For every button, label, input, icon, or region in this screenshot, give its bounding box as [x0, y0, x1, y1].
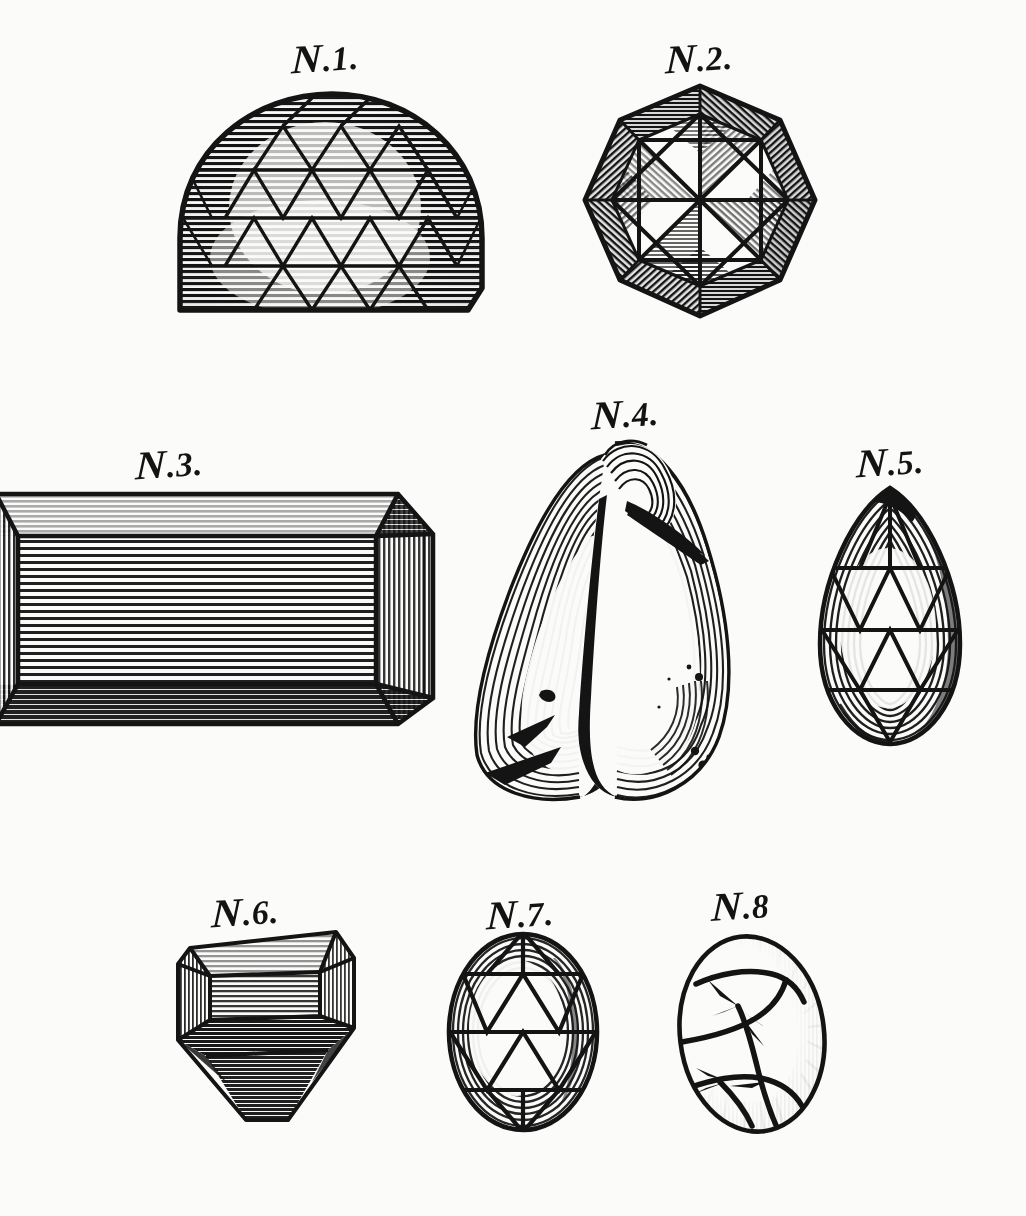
figure-n8-label: N.8 [711, 884, 771, 928]
engraved-plate: N.1. [0, 0, 1026, 1216]
figure-n4-drawing [455, 425, 765, 825]
figure-n5 [800, 478, 980, 758]
figure-n1-label-suffix: .1. [321, 40, 360, 79]
figure-n5-label: N.5. [856, 440, 925, 485]
figure-n3-drawing [0, 470, 448, 740]
figure-n3-label-suffix: .3. [165, 446, 204, 485]
figure-n3-label: N.3. [135, 442, 204, 487]
figure-n1-label-prefix: N [291, 38, 323, 80]
figure-n8 [660, 922, 840, 1152]
figure-n7-drawing [437, 928, 612, 1143]
figure-n8-label-suffix: .8 [741, 888, 770, 927]
figure-n8-drawing [660, 922, 840, 1152]
figure-n4-label-prefix: N [591, 394, 623, 436]
figure-n2-label-prefix: N [665, 38, 697, 80]
figure-n2-label-suffix: .2. [695, 40, 734, 79]
figure-n7-label-suffix: .7. [516, 896, 555, 935]
figure-n2-drawing [575, 78, 825, 328]
figure-n5-label-suffix: .5. [886, 444, 925, 483]
figure-n6-label-suffix: .6. [241, 894, 280, 933]
figure-n7-label: N.7. [486, 892, 555, 937]
figure-n6 [168, 920, 378, 1130]
figure-n1 [150, 78, 510, 328]
figure-n1-drawing [150, 78, 510, 328]
figure-n7 [437, 928, 612, 1143]
figure-n4-label: N.4. [591, 392, 660, 437]
figure-n4 [455, 425, 765, 825]
figure-n6-label: N.6. [211, 890, 280, 935]
figure-n3 [0, 470, 448, 740]
figure-n4-label-suffix: .4. [621, 396, 660, 435]
figure-n6-label-prefix: N [211, 892, 243, 934]
figure-n3-label-prefix: N [135, 444, 167, 486]
figure-n5-label-prefix: N [856, 442, 888, 484]
figure-n8-label-prefix: N [711, 886, 743, 928]
figure-n2 [575, 78, 825, 328]
figure-n6-drawing [168, 920, 378, 1130]
figure-n2-label: N.2. [665, 36, 734, 81]
figure-n1-label: N.1. [291, 36, 360, 81]
figure-n5-drawing [800, 478, 980, 758]
figure-n7-label-prefix: N [486, 894, 518, 936]
